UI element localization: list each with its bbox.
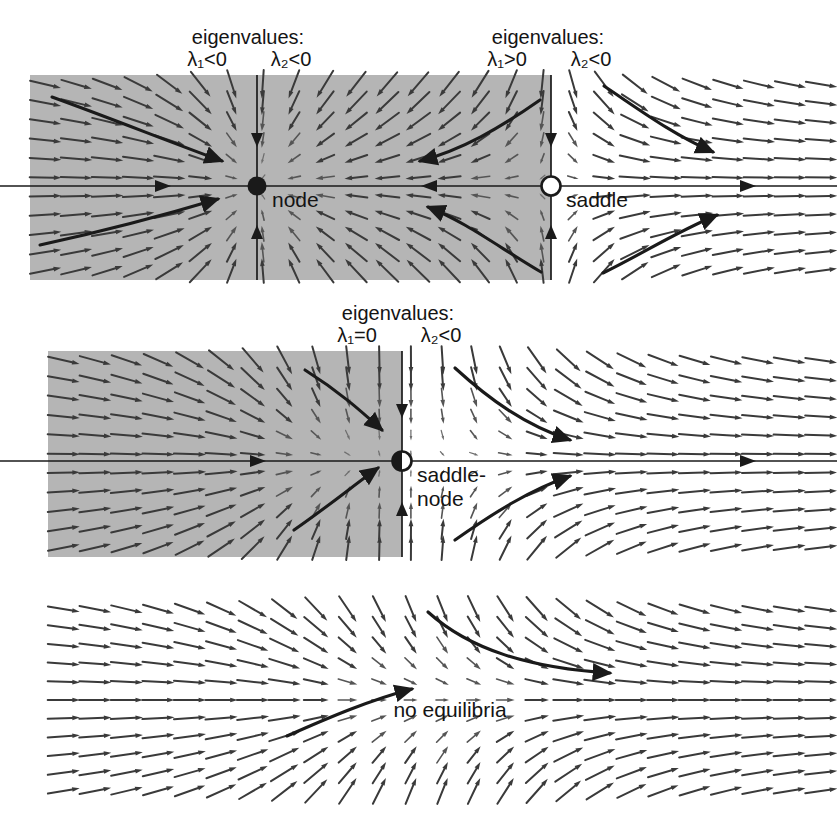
equilibrium-node-label: node [272, 188, 319, 211]
eigenvalue-node-lambda2: λ₂<0 [271, 48, 312, 70]
eigenvalue-node-heading: eigenvalues: [192, 26, 304, 48]
equilibrium-node-marker[interactable] [248, 177, 267, 196]
equilibrium-saddle-node-marker[interactable] [393, 452, 412, 471]
eigenvalue-saddlenode-heading: eigenvalues: [342, 302, 454, 324]
phase-portrait-figure: node saddle eigenvalues: λ₁<0 λ₂<0 eigen… [0, 0, 837, 827]
equilibrium-saddle-node-label-line1: saddle- [417, 463, 486, 486]
eigenvalue-saddlenode-lambda1: λ₁=0 [337, 324, 377, 346]
eigenvalue-saddle-lambda2: λ₂<0 [571, 48, 612, 70]
equilibrium-saddle-label: saddle [566, 188, 628, 211]
no-equilibria-annotation: no equilibria [393, 698, 507, 721]
eigenvalue-saddle-heading: eigenvalues: [492, 26, 604, 48]
equilibrium-saddle-node-label-line2: node [417, 487, 464, 510]
equilibrium-saddle-marker[interactable] [542, 177, 561, 196]
eigenvalue-saddlenode-lambda2: λ₂<0 [421, 324, 462, 346]
eigenvalue-node-lambda1: λ₁<0 [187, 48, 227, 70]
eigenvalue-saddle-lambda1: λ₁>0 [487, 48, 527, 70]
